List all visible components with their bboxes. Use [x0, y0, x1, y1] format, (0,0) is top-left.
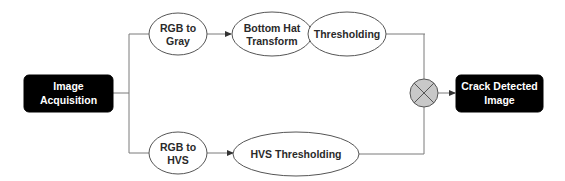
- node-rgb-to-hvs: RGB to HVS: [149, 132, 207, 174]
- edge-thresholding-to-junction: [424, 34, 425, 79]
- crack-detected-label-line1: Crack Detected: [461, 80, 537, 92]
- bottom-hat-ellipse: [232, 12, 312, 56]
- flow-diagram: Image Acquisition RGB to Gray Bottom Hat…: [0, 0, 565, 181]
- rgb-to-hvs-ellipse: [149, 132, 207, 174]
- crack-detected-label-line2: Image: [484, 94, 515, 106]
- hvs-thresholding-label: HVS Thresholding: [250, 148, 341, 160]
- bottom-hat-label-line1: Bottom Hat: [244, 22, 301, 34]
- node-thresholding: Thresholding: [308, 12, 386, 56]
- thresholding-label: Thresholding: [314, 28, 381, 40]
- image-acquisition-label-line1: Image: [53, 80, 84, 92]
- node-crack-detected-image: Crack Detected Image: [456, 75, 543, 112]
- node-junction: [410, 79, 438, 107]
- bottom-hat-label-line2: Transform: [246, 35, 297, 47]
- image-acquisition-label-line2: Acquisition: [40, 94, 97, 106]
- node-rgb-to-gray: RGB to Gray: [149, 13, 207, 55]
- rgb-to-gray-label-line1: RGB to: [160, 22, 196, 34]
- rgb-to-hvs-label-line2: HVS: [167, 154, 189, 166]
- node-bottom-hat-transform: Bottom Hat Transform: [232, 12, 312, 56]
- rgb-to-gray-label-line2: Gray: [166, 35, 190, 47]
- rgb-to-gray-ellipse: [149, 13, 207, 55]
- edge-hvs-thresholding-to-junction: [359, 107, 424, 154]
- node-hvs-thresholding: HVS Thresholding: [233, 132, 359, 176]
- rgb-to-hvs-label-line1: RGB to: [160, 141, 196, 153]
- node-image-acquisition: Image Acquisition: [24, 75, 113, 112]
